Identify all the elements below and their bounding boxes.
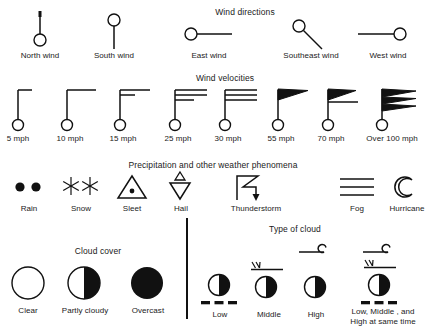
symbol-snow bbox=[60, 174, 102, 200]
label-wind-55mph: 55 mph bbox=[254, 134, 308, 143]
label-cloud-type-low: Low bbox=[202, 310, 238, 319]
label-cloud-type-all: Low, Middle , and High at same time bbox=[340, 307, 426, 327]
label-wind-5mph: 5 mph bbox=[0, 134, 42, 143]
symbol-wind-over-100mph bbox=[372, 86, 426, 132]
wind-direction-southeast-icon bbox=[290, 18, 332, 52]
symbol-hurricane bbox=[390, 174, 422, 202]
wind-barb-70-icon bbox=[318, 86, 370, 132]
wind-barb-55-icon bbox=[268, 86, 320, 132]
symbol-south-wind bbox=[92, 8, 136, 50]
snow-icon bbox=[60, 174, 102, 200]
symbol-wind-10mph bbox=[57, 86, 107, 132]
label-wind-30mph: 30 mph bbox=[201, 134, 255, 143]
symbol-hail bbox=[163, 170, 197, 202]
hurricane-icon bbox=[390, 174, 422, 202]
symbol-cloud-partly-cloudy bbox=[62, 263, 106, 303]
label-wind-70mph: 70 mph bbox=[304, 134, 358, 143]
symbol-cloud-overcast bbox=[125, 263, 169, 303]
label-east-wind: East wind bbox=[178, 51, 240, 60]
section-title-wind-directions: Wind directions bbox=[195, 7, 295, 17]
section-title-type-of-cloud: Type of cloud bbox=[255, 224, 335, 234]
label-north-wind: North wind bbox=[8, 51, 72, 60]
symbol-cloud-type-high bbox=[295, 244, 345, 306]
symbol-wind-70mph bbox=[318, 86, 370, 132]
hail-icon bbox=[163, 170, 197, 202]
label-wind-over-100mph: Over 100 mph bbox=[358, 134, 426, 143]
label-fog: Fog bbox=[338, 204, 376, 213]
label-sleet: Sleet bbox=[111, 204, 153, 213]
label-wind-10mph: 10 mph bbox=[43, 134, 97, 143]
symbol-wind-30mph bbox=[215, 86, 267, 132]
cloud-type-high-icon bbox=[295, 244, 345, 306]
symbol-cloud-type-all bbox=[357, 244, 415, 310]
symbol-cloud-type-low bbox=[198, 272, 240, 310]
symbol-north-wind bbox=[18, 8, 62, 50]
label-cloud-clear: Clear bbox=[6, 306, 50, 315]
wind-barb-10-icon bbox=[57, 86, 107, 132]
symbol-thunderstorm bbox=[229, 173, 279, 203]
label-cloud-overcast: Overcast bbox=[122, 306, 174, 315]
label-cloud-type-high: High bbox=[298, 310, 334, 319]
symbol-sleet bbox=[113, 173, 151, 201]
cloud-type-all-icon bbox=[357, 244, 415, 310]
section-divider bbox=[186, 218, 188, 319]
symbol-west-wind bbox=[356, 22, 414, 46]
cloud-cover-overcast-icon bbox=[125, 263, 169, 303]
symbol-rain bbox=[10, 178, 48, 198]
label-hail: Hail bbox=[162, 204, 200, 213]
label-cloud-type-middle: Middle bbox=[247, 310, 291, 319]
label-hurricane: Hurricane bbox=[381, 204, 426, 213]
label-snow: Snow bbox=[57, 204, 105, 213]
wind-direction-east-icon bbox=[180, 22, 240, 46]
symbol-wind-25mph bbox=[165, 86, 217, 132]
wind-direction-west-icon bbox=[356, 22, 414, 46]
rain-icon bbox=[10, 178, 48, 198]
symbol-wind-5mph bbox=[8, 86, 52, 132]
wind-barb-over-100-icon bbox=[372, 86, 426, 132]
sleet-icon bbox=[113, 173, 151, 201]
wind-barb-15-icon bbox=[110, 86, 162, 132]
symbol-cloud-type-middle bbox=[245, 258, 291, 306]
label-rain: Rain bbox=[6, 204, 52, 213]
cloud-type-middle-icon bbox=[245, 258, 291, 306]
fog-icon bbox=[336, 176, 378, 200]
label-south-wind: South wind bbox=[82, 51, 146, 60]
wind-barb-30-icon bbox=[215, 86, 267, 132]
wind-direction-north-icon bbox=[18, 8, 62, 50]
symbol-fog bbox=[336, 176, 378, 200]
label-cloud-type-all-line1: Low, Middle , and bbox=[340, 307, 426, 317]
symbol-wind-15mph bbox=[110, 86, 162, 132]
thunderstorm-icon bbox=[229, 173, 279, 203]
wind-barb-5-icon bbox=[8, 86, 52, 132]
symbol-wind-55mph bbox=[268, 86, 320, 132]
label-southeast-wind: Southeast wind bbox=[271, 51, 351, 60]
section-title-precipitation: Precipitation and other weather phenomen… bbox=[103, 160, 323, 170]
symbol-cloud-clear bbox=[6, 263, 50, 303]
cloud-cover-clear-icon bbox=[6, 263, 50, 303]
symbol-southeast-wind bbox=[290, 18, 332, 52]
label-thunderstorm: Thunderstorm bbox=[220, 204, 292, 213]
cloud-cover-partly-cloudy-icon bbox=[62, 263, 106, 303]
section-title-wind-velocities: Wind velocities bbox=[175, 73, 275, 83]
weather-map-symbols-chart: Wind directions North wind South wind Ea… bbox=[0, 0, 426, 330]
label-cloud-type-all-line2: High at same time bbox=[340, 317, 426, 327]
wind-direction-south-icon bbox=[92, 8, 136, 50]
section-title-cloud-cover: Cloud cover bbox=[53, 246, 143, 256]
label-west-wind: West wind bbox=[357, 51, 419, 60]
wind-barb-25-icon bbox=[165, 86, 217, 132]
symbol-east-wind bbox=[180, 22, 240, 46]
label-wind-15mph: 15 mph bbox=[96, 134, 150, 143]
cloud-type-low-icon bbox=[198, 272, 240, 310]
label-cloud-partly-cloudy: Partly cloudy bbox=[54, 306, 116, 315]
label-wind-25mph: 25 mph bbox=[151, 134, 205, 143]
